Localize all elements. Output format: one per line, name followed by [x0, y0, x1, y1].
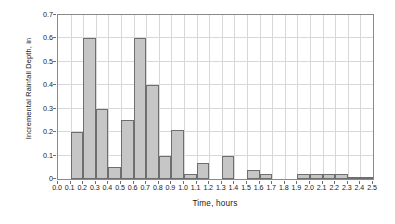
y-tick-mark	[53, 155, 56, 156]
histogram-bar	[323, 174, 336, 179]
histogram-bar	[146, 85, 159, 179]
histogram-bar	[134, 38, 147, 179]
y-tick-label: 0.2	[31, 127, 53, 136]
histogram-bar	[348, 177, 361, 179]
y-axis-tick-labels: 00.10.20.30.40.50.60.7	[27, 14, 53, 178]
histogram-bar	[335, 174, 348, 179]
histogram-bar	[96, 109, 109, 179]
y-tick-mark	[53, 61, 56, 62]
y-tick-label: 0.6	[31, 33, 53, 42]
y-tick-label: 0.4	[31, 80, 53, 89]
y-tick-mark	[53, 37, 56, 38]
histogram-bar	[247, 170, 260, 179]
histogram-bar	[83, 38, 96, 179]
y-tick-label: 0.1	[31, 150, 53, 159]
y-tick-label: 0.7	[31, 10, 53, 19]
y-tick-label: 0.3	[31, 103, 53, 112]
rainfall-histogram-figure: Incremental Rainfall Depth, in 00.10.20.…	[0, 0, 395, 224]
y-tick-label: 0	[31, 174, 53, 183]
histogram-bar	[171, 130, 184, 179]
y-tick-mark	[53, 84, 56, 85]
histogram-bar	[197, 163, 210, 179]
histogram-bar	[121, 120, 134, 179]
histogram-bar	[222, 156, 235, 179]
plot-area	[57, 14, 374, 180]
histogram-bar	[310, 174, 323, 179]
histogram-bar	[184, 174, 197, 179]
bar-series-layer	[58, 15, 373, 179]
histogram-bar	[297, 174, 310, 179]
histogram-bar	[71, 132, 84, 179]
histogram-bar	[360, 177, 373, 179]
x-tick-label: 2.5	[360, 184, 384, 192]
x-tick-mark	[372, 181, 373, 184]
x-axis-title: Time, hours	[57, 199, 373, 208]
histogram-bar	[108, 167, 121, 179]
histogram-bar	[159, 156, 172, 179]
y-tick-mark	[53, 131, 56, 132]
y-tick-mark	[53, 178, 56, 179]
y-tick-mark	[53, 14, 56, 15]
histogram-bar	[260, 174, 273, 179]
y-tick-label: 0.5	[31, 56, 53, 65]
y-tick-mark	[53, 108, 56, 109]
x-axis-tick-labels: 0.00.10.20.30.40.50.60.70.80.91.01.11.21…	[57, 181, 372, 193]
